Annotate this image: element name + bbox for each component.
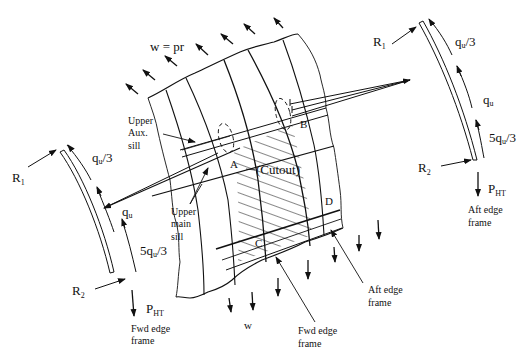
svg-text:sill: sill [171,231,183,242]
svg-text:Upper: Upper [128,115,154,126]
svg-text:Aft edge: Aft edge [368,284,403,295]
aft-q-bot: 5qu/3 [489,130,516,146]
cutout-hatch [234,124,312,262]
fwd-caption-2: frame [131,335,155,346]
fwd-r2: R2 [72,283,85,300]
aux-sill-inner [182,136,230,150]
point-b: B [300,118,307,130]
svg-text:Upper: Upper [171,206,197,217]
point-d: D [325,195,333,207]
aft-q-top: qu/3 [455,34,476,50]
aft-caption-2: frame [468,217,492,228]
load-label-top: w = pr [150,39,185,54]
aft-r2: R2 [418,160,431,177]
svg-text:Fwd edge: Fwd edge [298,325,338,336]
fwd-r1: R1 [12,170,25,187]
fwd-q-mid: qu [122,204,133,220]
aft-edge-frame-label-center: Aft edge frame [331,230,403,308]
svg-text:main: main [171,218,191,229]
aft-q-mid: qu [483,92,494,108]
aft-caption-1: Aft edge [468,204,503,215]
svg-text:frame: frame [368,297,392,308]
fwd-q-bot: 5qu/3 [140,243,167,259]
cutout-load-diagram: w = pr w A B C D (Cutout) Upper Aux. sil… [0,0,530,358]
aft-r1: R1 [373,34,386,51]
fwd-pht: PHT [146,301,164,318]
aft-pht: PHT [488,181,506,198]
cutout-label: (Cutout) [256,162,300,177]
panel-left-edge [148,98,180,297]
frame-line-2 [186,78,235,285]
fwd-edge-frame-label-center: Fwd edge frame [276,257,338,349]
svg-text:Aux.: Aux. [128,127,148,138]
svg-text:sill: sill [128,140,140,151]
point-c: C [255,237,262,249]
fwd-caption-1: Fwd edge [131,323,171,334]
upper-main-sill-label: Upper main sill [171,168,208,242]
load-label-bottom: w [244,319,252,331]
fwd-q-top: qu/3 [92,150,113,166]
svg-text:frame: frame [298,338,322,349]
fuselage-panel [148,34,343,298]
pressure-load-arrows-top [126,18,283,94]
point-a: A [230,158,238,170]
splice-ellipse-left [216,122,237,154]
